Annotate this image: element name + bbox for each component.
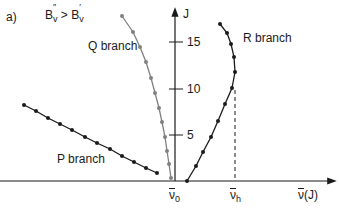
data-point (225, 31, 229, 35)
data-point (223, 102, 227, 106)
data-point (131, 30, 135, 34)
data-point (46, 116, 50, 120)
data-point (167, 162, 171, 166)
x-mark-nuh: νh (230, 189, 241, 204)
panel-label: a) (6, 11, 17, 23)
data-point (138, 45, 142, 49)
data-point (232, 55, 236, 59)
data-point (58, 122, 62, 126)
y-tick-label-5: 5 (187, 129, 194, 141)
data-point (120, 14, 124, 18)
data-point (160, 120, 164, 124)
p-branch-label: P branch (57, 153, 105, 165)
data-point (34, 109, 38, 113)
x-mark-nu0: ν0 (169, 189, 180, 204)
y-tick-label-10: 10 (187, 83, 200, 95)
data-point (194, 164, 198, 168)
y-tick-label-15: 15 (187, 36, 200, 48)
data-point (155, 171, 159, 175)
data-point (22, 103, 26, 107)
data-point (229, 42, 233, 46)
condition-label: B″v > B′v (45, 9, 84, 24)
data-point (132, 160, 136, 164)
data-point (108, 147, 112, 151)
data-point (70, 128, 74, 132)
data-point (185, 179, 189, 183)
data-point (169, 176, 173, 180)
x-axis-label: ν(J) (298, 189, 318, 201)
data-point (218, 22, 222, 26)
r-branch-label: R branch (243, 32, 292, 44)
data-point (83, 135, 87, 139)
data-point (233, 70, 237, 74)
data-point (149, 76, 153, 80)
data-point (144, 166, 148, 170)
data-point (163, 135, 167, 139)
data-point (120, 154, 124, 158)
data-point (157, 106, 161, 110)
y-axis-label: J (183, 8, 189, 20)
data-point (216, 119, 220, 123)
data-point (201, 150, 205, 154)
data-point (95, 141, 99, 145)
data-point (230, 86, 234, 90)
data-point (153, 91, 157, 95)
data-point (144, 60, 148, 64)
data-point (209, 135, 213, 139)
q-branch-label: Q branch (88, 40, 137, 52)
data-point (165, 149, 169, 153)
